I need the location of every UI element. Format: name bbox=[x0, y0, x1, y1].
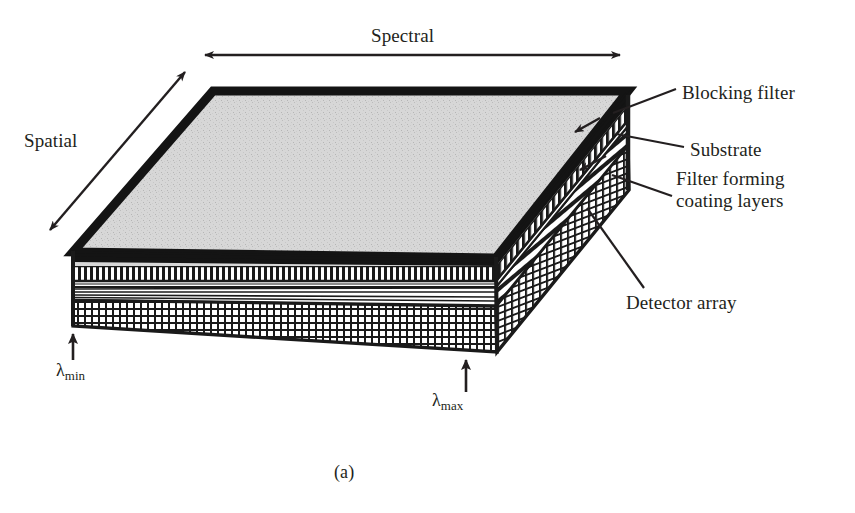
leader-detector-array bbox=[587, 208, 644, 288]
lambda-max-label: λmax bbox=[432, 390, 463, 413]
lambda-max-subscript: max bbox=[441, 398, 463, 413]
spectral-axis-label: Spectral bbox=[371, 25, 434, 47]
figure-caption: (a) bbox=[334, 462, 354, 483]
lambda-min-subscript: min bbox=[65, 368, 85, 383]
lambda-max-symbol: λ bbox=[432, 390, 441, 410]
blocking-filter-label: Blocking filter bbox=[682, 82, 795, 104]
lambda-min-symbol: λ bbox=[56, 360, 65, 380]
substrate-label: Substrate bbox=[690, 139, 762, 161]
detector-slab bbox=[73, 91, 629, 352]
filter-coating-label-line1: Filter forming bbox=[676, 168, 785, 190]
detector-assembly-drawing bbox=[0, 0, 855, 513]
filter-coating-label-line2: coating layers bbox=[676, 190, 785, 212]
filter-coating-label: Filter forming coating layers bbox=[676, 168, 785, 213]
spatial-axis-label: Spatial bbox=[24, 130, 77, 152]
lambda-min-label: λmin bbox=[56, 360, 85, 383]
detector-array-front-face bbox=[73, 300, 497, 352]
blocking-filter-front-face bbox=[73, 266, 496, 281]
figure-container: Spectral Spatial Blocking filter Substra… bbox=[0, 0, 855, 513]
detector-array-label: Detector array bbox=[626, 292, 737, 314]
